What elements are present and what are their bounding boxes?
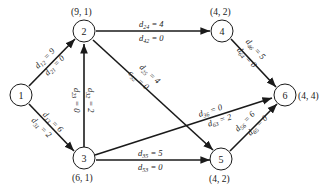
node-3-coord: (6, 1): [72, 173, 93, 184]
svg-text:1: 1: [19, 90, 24, 101]
label-edge-3-6: d36 = 0 d63 = 2: [197, 100, 234, 132]
node-5: 5 (4, 2): [209, 148, 232, 185]
svg-text:d23 = 0: d23 = 0: [71, 88, 82, 113]
label-edge-1-3: d13 = 6 d31 = 2: [29, 107, 66, 144]
svg-text:d24 = 4: d24 = 4: [139, 19, 164, 30]
node-4: 4 (4, 2): [210, 7, 233, 42]
node-2: 2 (9, 1): [71, 7, 95, 42]
node-2-coord: (9, 1): [71, 7, 92, 18]
node-3: 3 (6, 1): [72, 147, 95, 184]
network-flow-diagram: d12 = 9 d21 = 0 d13 = 6 d31 = 2 d32 = 2 …: [0, 0, 325, 191]
svg-text:3: 3: [82, 153, 87, 164]
edge-2-5: [93, 40, 213, 150]
node-1: 1: [10, 84, 32, 106]
svg-text:d35 = 5: d35 = 5: [138, 148, 163, 159]
label-edge-4-6: d46 = 5 d64 = 0: [234, 36, 268, 70]
node-6-coord: (4, 4): [298, 91, 319, 102]
svg-text:5: 5: [219, 154, 224, 165]
label-edge-5-6: d56 = 6 d65 = 0: [232, 104, 270, 142]
svg-text:4: 4: [220, 26, 225, 37]
svg-text:6: 6: [283, 90, 288, 101]
label-edge-1-2: d12 = 9 d21 = 0: [32, 44, 68, 80]
svg-text:2: 2: [82, 26, 87, 37]
node-5-coord: (4, 2): [209, 174, 230, 185]
node-4-coord: (4, 2): [210, 7, 231, 18]
node-6: 6 (4, 4): [274, 84, 319, 106]
label-edge-2-5: d25 = 4 c52 = 0: [126, 59, 163, 96]
svg-text:d32 = 2: d32 = 2: [85, 88, 96, 113]
svg-text:d42 = 0: d42 = 0: [139, 33, 164, 44]
svg-text:d53 = 0: d53 = 0: [138, 162, 163, 173]
